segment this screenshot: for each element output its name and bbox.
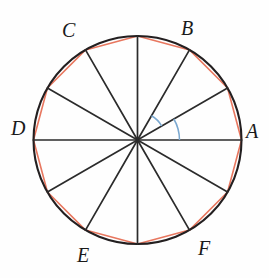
figure-canvas bbox=[0, 0, 269, 278]
spoke-240deg bbox=[86, 140, 138, 230]
geometry-figure: A B C D E F bbox=[0, 0, 269, 278]
arc-0-to-30 bbox=[174, 119, 180, 140]
spoke-120deg bbox=[86, 50, 138, 140]
spoke-330deg bbox=[138, 140, 228, 192]
spoke-300deg bbox=[138, 140, 190, 230]
vertex-label-a: A bbox=[246, 121, 258, 141]
spoke-30deg bbox=[138, 88, 228, 140]
arc-30-to-60 bbox=[152, 116, 162, 126]
spoke-150deg bbox=[47, 88, 137, 140]
spoke-60deg bbox=[138, 50, 190, 140]
vertex-label-c: C bbox=[62, 20, 75, 40]
vertex-label-e: E bbox=[77, 245, 89, 265]
vertex-label-d: D bbox=[11, 118, 25, 138]
vertex-label-f: F bbox=[198, 238, 210, 258]
angle-arc-marks bbox=[152, 116, 180, 140]
vertex-label-b: B bbox=[181, 18, 193, 38]
spoke-210deg bbox=[47, 140, 137, 192]
